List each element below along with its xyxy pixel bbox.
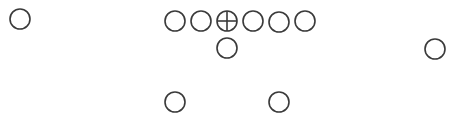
player-circle-icon [217,38,237,58]
player-circle-icon [269,12,289,32]
player-circle-icon [243,11,263,31]
player-tight-end [295,11,315,31]
player-halfback-left [165,92,185,112]
player-circle-icon [165,92,185,112]
player-left-guard [191,11,211,31]
player-circle-icon [269,92,289,112]
player-circle-icon [425,39,445,59]
player-right-guard [243,11,263,31]
player-center [217,11,237,31]
player-halfback-right [269,92,289,112]
player-quarterback [217,38,237,58]
player-circle-icon [191,11,211,31]
player-left-tackle [165,11,185,31]
player-wide-receiver-right [425,39,445,59]
player-circle-icon [165,11,185,31]
player-right-tackle [269,12,289,32]
player-circle-icon [10,9,30,29]
player-wide-receiver-left [10,9,30,29]
formation-diagram [0,0,456,123]
player-circle-icon [295,11,315,31]
